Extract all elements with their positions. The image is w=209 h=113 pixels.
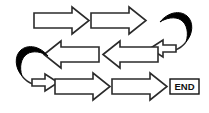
end-marker-label: END <box>174 81 194 92</box>
end-marker[interactable]: END <box>170 79 199 94</box>
flow-diagram-canvas: END <box>0 0 209 113</box>
flow-diagram: END <box>0 0 209 113</box>
